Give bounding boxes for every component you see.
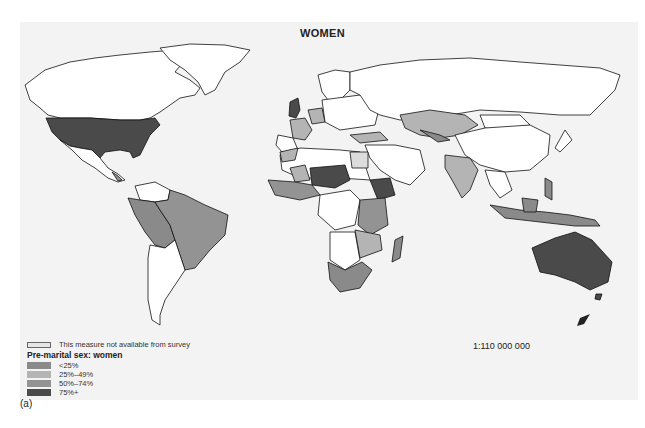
panel-label: (a): [20, 398, 32, 409]
region-niger-chad: [310, 165, 350, 188]
region-middle-east: [365, 145, 425, 185]
legend-label-50-74: 50%–74%: [59, 379, 93, 388]
region-colombia-venez: [135, 182, 170, 202]
region-scandinavia: [318, 70, 350, 100]
legend-swatch-25-49: [27, 371, 51, 378]
region-australia: [532, 232, 612, 290]
legend-swatch-lt25: [27, 362, 51, 369]
region-russia: [350, 58, 620, 120]
legend-label-75plus: 75%+: [59, 388, 78, 397]
region-zambia-etc: [355, 230, 382, 258]
legend-row-class-4: 75%+: [27, 388, 190, 397]
legend-swatch-50-74: [27, 380, 51, 387]
region-uk: [289, 98, 300, 118]
region-japan: [555, 130, 572, 152]
region-france: [290, 118, 312, 140]
region-borneo: [522, 198, 538, 212]
region-angola-namibia: [330, 232, 360, 270]
legend-swatch-75plus: [27, 389, 51, 396]
region-india: [445, 155, 478, 198]
legend-row-na: This measure not available from survey: [27, 340, 190, 349]
region-argentina-chile: [148, 240, 185, 325]
region-germany: [308, 108, 325, 124]
legend-swatch-na: [27, 342, 51, 348]
region-egypt: [350, 152, 368, 168]
region-new-zealand: [577, 314, 590, 326]
legend-heading: Pre-marital sex: women: [27, 350, 190, 360]
legend-row-class-2: 25%–49%: [27, 370, 190, 379]
region-usa: [46, 118, 160, 158]
region-philippines: [545, 178, 552, 200]
map-scale: 1:110 000 000: [473, 341, 530, 351]
legend-row-class-3: 50%–74%: [27, 379, 190, 388]
map-legend: This measure not available from survey P…: [27, 340, 190, 397]
region-tasmania: [595, 294, 602, 300]
region-indonesia: [490, 205, 600, 226]
legend-label-25-49: 25%–49%: [59, 370, 93, 379]
region-c-africa: [318, 190, 360, 230]
region-ethiopia: [370, 178, 395, 200]
map-title: WOMEN: [0, 27, 645, 39]
region-se-asia: [485, 170, 512, 198]
region-turkey: [350, 132, 388, 143]
legend-row-class-1: <25%: [27, 361, 190, 370]
legend-label-lt25: <25%: [59, 361, 78, 370]
region-e-africa: [358, 198, 388, 235]
region-madagascar: [392, 236, 403, 262]
legend-label-na: This measure not available from survey: [59, 340, 190, 349]
